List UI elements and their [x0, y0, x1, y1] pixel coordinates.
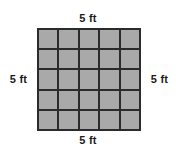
dimension-label-left: 5 ft: [2, 73, 35, 85]
dimension-label-top: 5 ft: [0, 12, 176, 24]
grid-cell: [59, 50, 77, 68]
grid-cell: [100, 30, 118, 48]
grid-cell: [121, 50, 139, 68]
grid-cell: [121, 30, 139, 48]
square-grid: [37, 28, 141, 131]
grid-cell: [80, 50, 98, 68]
grid-cell: [39, 111, 57, 129]
grid-cell: [59, 30, 77, 48]
grid-cell: [121, 91, 139, 109]
grid-cell: [80, 111, 98, 129]
grid-cell: [39, 70, 57, 88]
dimension-label-right: 5 ft: [143, 73, 176, 85]
grid-cell: [80, 91, 98, 109]
grid-cell: [59, 70, 77, 88]
grid-cell: [80, 70, 98, 88]
square-grid-diagram: 5 ft 5 ft 5 ft 5 ft: [0, 0, 176, 152]
grid-cell: [39, 91, 57, 109]
grid-cell: [59, 111, 77, 129]
grid-cell: [39, 30, 57, 48]
grid-cell: [121, 70, 139, 88]
grid-cell: [100, 91, 118, 109]
grid-cell: [80, 30, 98, 48]
grid-cell: [59, 91, 77, 109]
grid-cell: [100, 50, 118, 68]
grid-cell: [100, 70, 118, 88]
dimension-label-bottom: 5 ft: [0, 134, 176, 146]
grid-cell: [39, 50, 57, 68]
grid-cell: [121, 111, 139, 129]
grid-cell: [100, 111, 118, 129]
